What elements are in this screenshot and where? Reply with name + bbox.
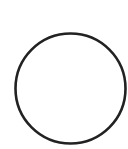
circle-icon: [16, 34, 126, 144]
canvas: [0, 0, 128, 149]
